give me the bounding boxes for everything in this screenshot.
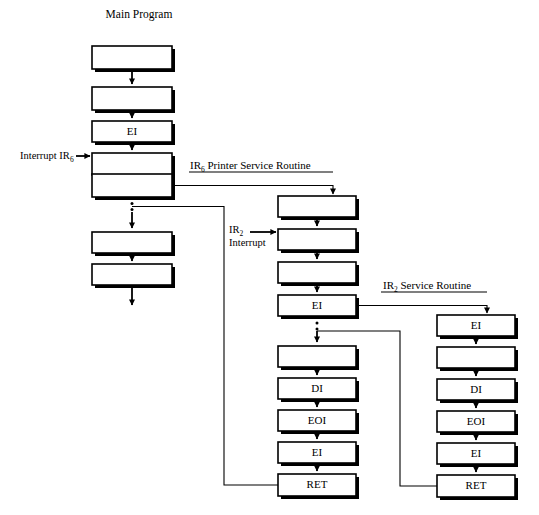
- main-box-ei[interactable]: EI: [92, 121, 175, 145]
- printer-box-ei2[interactable]: EI: [278, 442, 359, 466]
- ir2-interrupt-label-line1: IR2: [229, 224, 244, 238]
- main-box-ei-label: EI: [127, 125, 138, 137]
- main-program-column: EI: [92, 46, 175, 305]
- printer-box-ei[interactable]: EI: [278, 295, 359, 319]
- ir2-interrupt-label-group: IR2 Interrupt: [229, 224, 276, 248]
- printer-box-eoi[interactable]: EOI: [278, 410, 359, 434]
- printer-ellipsis: [316, 322, 319, 331]
- ir2-box-eoi[interactable]: EOI: [437, 411, 518, 435]
- printer-box-eoi-label: EOI: [308, 414, 327, 426]
- printer-box-5[interactable]: [278, 346, 359, 370]
- interrupt-ir6-label-group: Interrupt IR6: [20, 150, 90, 164]
- ir2-box-eoi-label: EOI: [467, 415, 486, 427]
- printer-box-ei-label: EI: [312, 299, 323, 311]
- main-box-1[interactable]: [92, 46, 175, 72]
- printer-box-2[interactable]: [278, 229, 359, 253]
- flowchart-svg: EI: [0, 0, 539, 515]
- flowchart-diagram: EI: [0, 0, 539, 515]
- ir2-box-di[interactable]: DI: [437, 379, 518, 403]
- ir2-box-ei2[interactable]: EI: [437, 443, 518, 467]
- page-title: Main Program: [106, 8, 173, 21]
- printer-box-ret-label: RET: [307, 478, 328, 490]
- ir2-box-ret-label: RET: [466, 479, 487, 491]
- printer-box-1[interactable]: [278, 196, 359, 220]
- ir2-routine-column: EI DI EOI: [317, 315, 518, 500]
- main-to-printer-entry-line: [172, 186, 333, 195]
- main-box-6[interactable]: [92, 232, 175, 256]
- ir2-interrupt-label-line2: Interrupt: [229, 237, 266, 248]
- ir2-box-ei[interactable]: EI: [437, 315, 518, 339]
- printer-box-3[interactable]: [278, 262, 359, 286]
- printer-box-di-label: DI: [311, 382, 323, 394]
- ir2-box-ei2-label: EI: [471, 447, 482, 459]
- ir2-box-ei-label: EI: [471, 319, 482, 331]
- ir2-box-di-label: DI: [470, 383, 482, 395]
- main-box-2[interactable]: [92, 87, 175, 113]
- printer-box-ei2-label: EI: [312, 446, 323, 458]
- main-box-7[interactable]: [92, 264, 175, 288]
- printer-to-ir2-entry-line: [356, 306, 487, 314]
- printer-routine-column: EI DI: [132, 172, 487, 499]
- ir2-box-ret[interactable]: RET: [437, 475, 518, 500]
- printer-box-ret[interactable]: RET: [278, 474, 359, 499]
- main-box-5[interactable]: [92, 174, 175, 200]
- printer-box-di[interactable]: DI: [278, 378, 359, 402]
- ir2-box-2[interactable]: [437, 347, 518, 371]
- interrupt-ir6-label: Interrupt IR6: [20, 150, 74, 164]
